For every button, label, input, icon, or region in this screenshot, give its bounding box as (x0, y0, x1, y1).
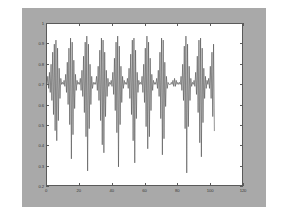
y-tick-mark (46, 186, 49, 187)
x-tick-mark (177, 183, 178, 186)
x-tick-mark (177, 23, 178, 26)
y-tick-mark (46, 84, 49, 85)
x-tick-mark (210, 23, 211, 26)
y-tick-label: 0.5 (30, 122, 44, 127)
x-tick-mark (145, 23, 146, 26)
x-tick-mark (145, 183, 146, 186)
y-tick-label: 0.8 (30, 61, 44, 66)
y-tick-label: 0.2 (30, 184, 44, 189)
y-tick-mark (46, 43, 49, 44)
signal-line-chart (47, 24, 242, 185)
x-tick-label: 60 (142, 188, 146, 193)
y-tick-mark (240, 125, 243, 126)
y-tick-mark (240, 186, 243, 187)
figure-root: 0.20.30.40.50.60.70.80.91020406080100120 (0, 0, 287, 219)
figure-panel: 0.20.30.40.50.60.70.80.91020406080100120 (22, 8, 266, 207)
x-tick-mark (112, 23, 113, 26)
plot-axes-box (46, 23, 243, 186)
x-tick-label: 120 (240, 188, 247, 193)
y-tick-mark (240, 64, 243, 65)
x-tick-label: 0 (45, 188, 47, 193)
y-tick-label: 0.3 (30, 163, 44, 168)
x-tick-label: 20 (77, 188, 81, 193)
y-tick-mark (46, 166, 49, 167)
y-tick-label: 0.7 (30, 82, 44, 87)
x-tick-mark (243, 23, 244, 26)
x-tick-mark (243, 183, 244, 186)
x-tick-mark (79, 23, 80, 26)
x-tick-label: 80 (175, 188, 179, 193)
y-tick-mark (46, 145, 49, 146)
x-tick-mark (112, 183, 113, 186)
y-tick-label: 0.4 (30, 143, 44, 148)
x-tick-label: 100 (207, 188, 214, 193)
y-tick-mark (240, 145, 243, 146)
y-tick-label: 1 (30, 21, 44, 26)
y-tick-mark (46, 105, 49, 106)
y-tick-label: 0.9 (30, 41, 44, 46)
signal-polyline (47, 36, 214, 173)
y-tick-mark (46, 125, 49, 126)
y-tick-label: 0.6 (30, 102, 44, 107)
y-tick-mark (240, 43, 243, 44)
y-tick-mark (240, 166, 243, 167)
y-tick-mark (240, 105, 243, 106)
x-tick-mark (210, 183, 211, 186)
x-tick-label: 40 (109, 188, 113, 193)
y-tick-mark (240, 84, 243, 85)
x-tick-mark (46, 23, 47, 26)
x-tick-mark (79, 183, 80, 186)
x-tick-mark (46, 183, 47, 186)
y-tick-mark (46, 64, 49, 65)
